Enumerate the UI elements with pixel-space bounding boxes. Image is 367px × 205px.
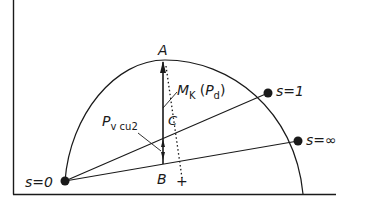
label-sinf: s=∞ xyxy=(306,132,337,148)
label-center-mark: + xyxy=(176,173,188,189)
label-s1: s=1 xyxy=(276,83,304,99)
label-a: A xyxy=(157,42,168,58)
arrow-down-small-icon xyxy=(161,152,165,160)
mk-main: M xyxy=(177,82,189,98)
mk-sub: K xyxy=(189,90,196,101)
label-b: B xyxy=(157,171,167,187)
line-s0-s1 xyxy=(65,93,268,181)
mk-paren-close: ) xyxy=(220,82,225,98)
point-sinf xyxy=(294,137,303,146)
pv-sub: v cu2 xyxy=(110,121,137,132)
label-mk-pd: MK(Pd) xyxy=(177,82,225,101)
label-c: C xyxy=(168,113,178,128)
point-s1 xyxy=(264,89,273,98)
circle-diagram: A B C + s=0 s=1 s=∞ MK(Pd) Pv cu2 xyxy=(0,0,367,205)
label-pv-cu2: Pv cu2 xyxy=(102,113,138,132)
arrow-up-icon xyxy=(160,61,166,73)
label-s0: s=0 xyxy=(25,174,53,190)
arrow-up-small-icon xyxy=(161,139,165,147)
point-s0 xyxy=(61,177,70,186)
